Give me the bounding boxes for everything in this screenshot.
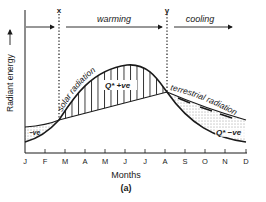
radiation-balance-diagram: J F M A M J J A S O N D Months (a) Radia… — [0, 0, 266, 202]
month-label: A — [162, 157, 167, 166]
month-label: N — [222, 157, 227, 166]
negative-right-region-label: Q* −ve — [216, 128, 242, 137]
warming-label: warming — [97, 14, 131, 24]
marker-y-label: y — [165, 6, 170, 15]
month-labels: J F M A M J J A S O N D — [23, 157, 249, 166]
month-label: M — [62, 157, 68, 166]
month-label: J — [123, 157, 127, 166]
marker-x-label: x — [57, 6, 62, 15]
negative-left-region-label: −ve — [29, 129, 40, 136]
month-label: O — [202, 157, 208, 166]
y-axis-label: Radiant energy — [5, 54, 15, 112]
month-label: J — [23, 157, 27, 166]
x-axis-ticks — [45, 149, 246, 153]
positive-region-label: Q* +ve — [105, 81, 131, 90]
month-label: M — [102, 157, 108, 166]
cooling-label: cooling — [186, 14, 215, 24]
month-label: F — [43, 157, 48, 166]
month-label: S — [182, 157, 187, 166]
x-axis-label: Months — [111, 170, 141, 180]
month-label: J — [143, 157, 147, 166]
panel-label: (a) — [121, 183, 132, 193]
month-label: A — [82, 157, 87, 166]
month-label: D — [243, 157, 249, 166]
